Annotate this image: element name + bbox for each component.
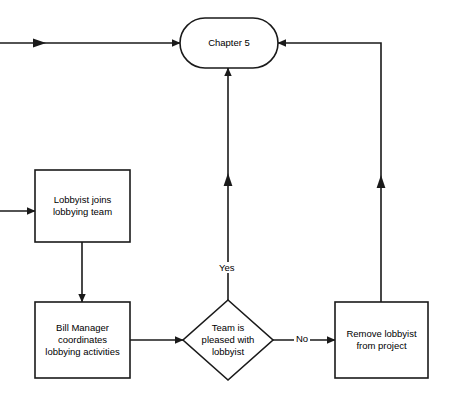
node-chapter5-shape[interactable] (180, 18, 278, 68)
edge-external-to-chapter5-midarrow (33, 39, 46, 48)
edge-remove-to-chapter5-midarrow (377, 175, 386, 188)
flowchart-svg (0, 0, 451, 403)
edge-decision-yes-midarrow (224, 173, 233, 186)
edge-label-no: No (294, 333, 310, 344)
node-team-pleased-shape[interactable] (183, 300, 273, 380)
node-lobbyist-joins-shape[interactable] (35, 170, 130, 242)
flowchart-canvas: Chapter 5 Lobbyist joins lobbying team B… (0, 0, 451, 403)
node-remove-lobbyist-shape[interactable] (335, 302, 428, 378)
edge-label-yes: Yes (217, 262, 237, 273)
node-bill-manager-shape[interactable] (35, 302, 130, 378)
edge-remove-to-chapter5 (278, 43, 381, 302)
